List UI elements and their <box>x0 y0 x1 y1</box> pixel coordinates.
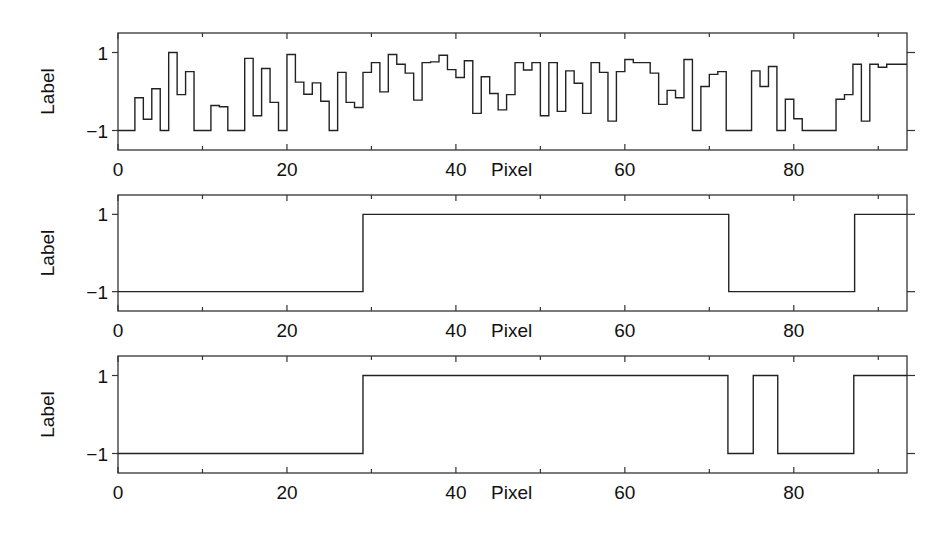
y-tick-label: 1 <box>97 204 108 225</box>
y-tick-label: 1 <box>97 366 108 387</box>
x-tick-label: 80 <box>783 482 804 503</box>
axes-frame <box>118 195 907 311</box>
x-tick-label: 80 <box>783 159 804 180</box>
x-tick-label: 20 <box>276 159 297 180</box>
step-plot-figure: 0204060801−1PixelLabel0204060801−1PixelL… <box>0 0 948 534</box>
y-axis-label: Label <box>37 391 58 438</box>
step-series-line <box>118 214 907 291</box>
step-series-line <box>118 53 907 131</box>
x-tick-label: 40 <box>445 482 466 503</box>
x-tick-label: 60 <box>614 482 635 503</box>
y-axis-label: Label <box>37 68 58 115</box>
y-tick-label: −1 <box>86 444 108 465</box>
axes-frame <box>118 33 907 150</box>
axes-frame <box>118 356 907 473</box>
x-tick-label: 60 <box>614 320 635 341</box>
x-tick-label: 20 <box>276 482 297 503</box>
panel-bottom: 0204060801−1PixelLabel <box>37 356 915 503</box>
x-tick-label: 0 <box>113 482 124 503</box>
y-axis-label: Label <box>37 230 58 277</box>
chart-canvas: 0204060801−1PixelLabel0204060801−1PixelL… <box>0 0 948 534</box>
x-tick-label: 40 <box>445 320 466 341</box>
x-tick-label: 20 <box>276 320 297 341</box>
y-tick-label: −1 <box>86 282 108 303</box>
y-tick-label: −1 <box>86 121 108 142</box>
x-axis-label: Pixel <box>491 159 532 180</box>
x-tick-label: 40 <box>445 159 466 180</box>
x-tick-label: 0 <box>113 320 124 341</box>
x-axis-label: Pixel <box>491 320 532 341</box>
y-tick-label: 1 <box>97 43 108 64</box>
x-tick-label: 80 <box>783 320 804 341</box>
x-axis-label: Pixel <box>491 482 532 503</box>
panel-middle: 0204060801−1PixelLabel <box>37 195 915 341</box>
step-series-line <box>118 376 907 454</box>
x-tick-label: 0 <box>113 159 124 180</box>
x-tick-label: 60 <box>614 159 635 180</box>
panel-top: 0204060801−1PixelLabel <box>37 33 915 180</box>
